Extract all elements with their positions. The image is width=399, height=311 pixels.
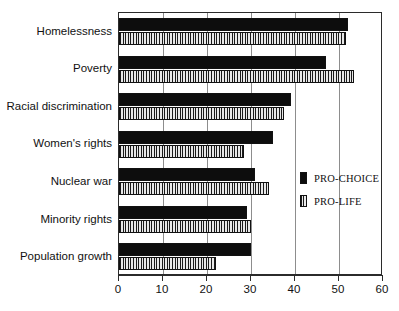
category-label: Nuclear war	[0, 162, 112, 200]
bar-pro-life	[119, 107, 284, 120]
x-tick	[162, 275, 163, 281]
bar-chart: HomelessnessPovertyRacial discrimination…	[0, 0, 399, 311]
x-tick	[250, 275, 251, 281]
bar-pro-life	[119, 220, 251, 233]
x-tick	[118, 275, 119, 281]
legend-swatch-pro-choice	[300, 172, 307, 184]
bar-pro-choice	[119, 243, 251, 256]
category-label: Homelessness	[0, 12, 112, 50]
bar-pro-choice	[119, 131, 273, 144]
bar-pro-life	[119, 70, 354, 83]
legend-item-pro-choice: PRO-CHOICE	[300, 172, 379, 184]
legend-item-pro-life: PRO-LIFE	[300, 195, 379, 207]
bar-pro-choice	[119, 93, 291, 106]
x-tick-label: 40	[288, 283, 301, 295]
category-label: Poverty	[0, 50, 112, 88]
bar-group	[119, 13, 381, 51]
bar-pro-choice	[119, 168, 255, 181]
bar-pro-life	[119, 257, 216, 270]
x-tick-label: 20	[200, 283, 213, 295]
x-tick	[206, 275, 207, 281]
x-tick-label: 30	[244, 283, 257, 295]
x-tick-label: 10	[156, 283, 169, 295]
bar-group	[119, 51, 381, 89]
category-label: Population growth	[0, 237, 112, 275]
bar-pro-choice	[119, 18, 348, 31]
x-tick-label: 0	[115, 283, 121, 295]
bar-group	[119, 88, 381, 126]
bar-pro-life	[119, 145, 244, 158]
legend-label-pro-life: PRO-LIFE	[314, 196, 362, 207]
x-tick	[382, 275, 383, 281]
x-tick	[294, 275, 295, 281]
category-label: Minority rights	[0, 200, 112, 238]
plot-area	[118, 12, 382, 275]
category-label: Women's rights	[0, 125, 112, 163]
bar-pro-life	[119, 182, 269, 195]
bar-group	[119, 238, 381, 276]
x-tick	[338, 275, 339, 281]
bar-pro-choice	[119, 56, 326, 69]
bar-pro-life	[119, 32, 346, 45]
legend-label-pro-choice: PRO-CHOICE	[314, 173, 379, 184]
legend-swatch-pro-life	[300, 195, 307, 207]
x-tick-label: 50	[332, 283, 345, 295]
bar-group	[119, 126, 381, 164]
chart-legend: PRO-CHOICE PRO-LIFE	[300, 172, 379, 218]
x-tick-label: 60	[376, 283, 389, 295]
bar-pro-choice	[119, 206, 247, 219]
category-label: Racial discrimination	[0, 87, 112, 125]
